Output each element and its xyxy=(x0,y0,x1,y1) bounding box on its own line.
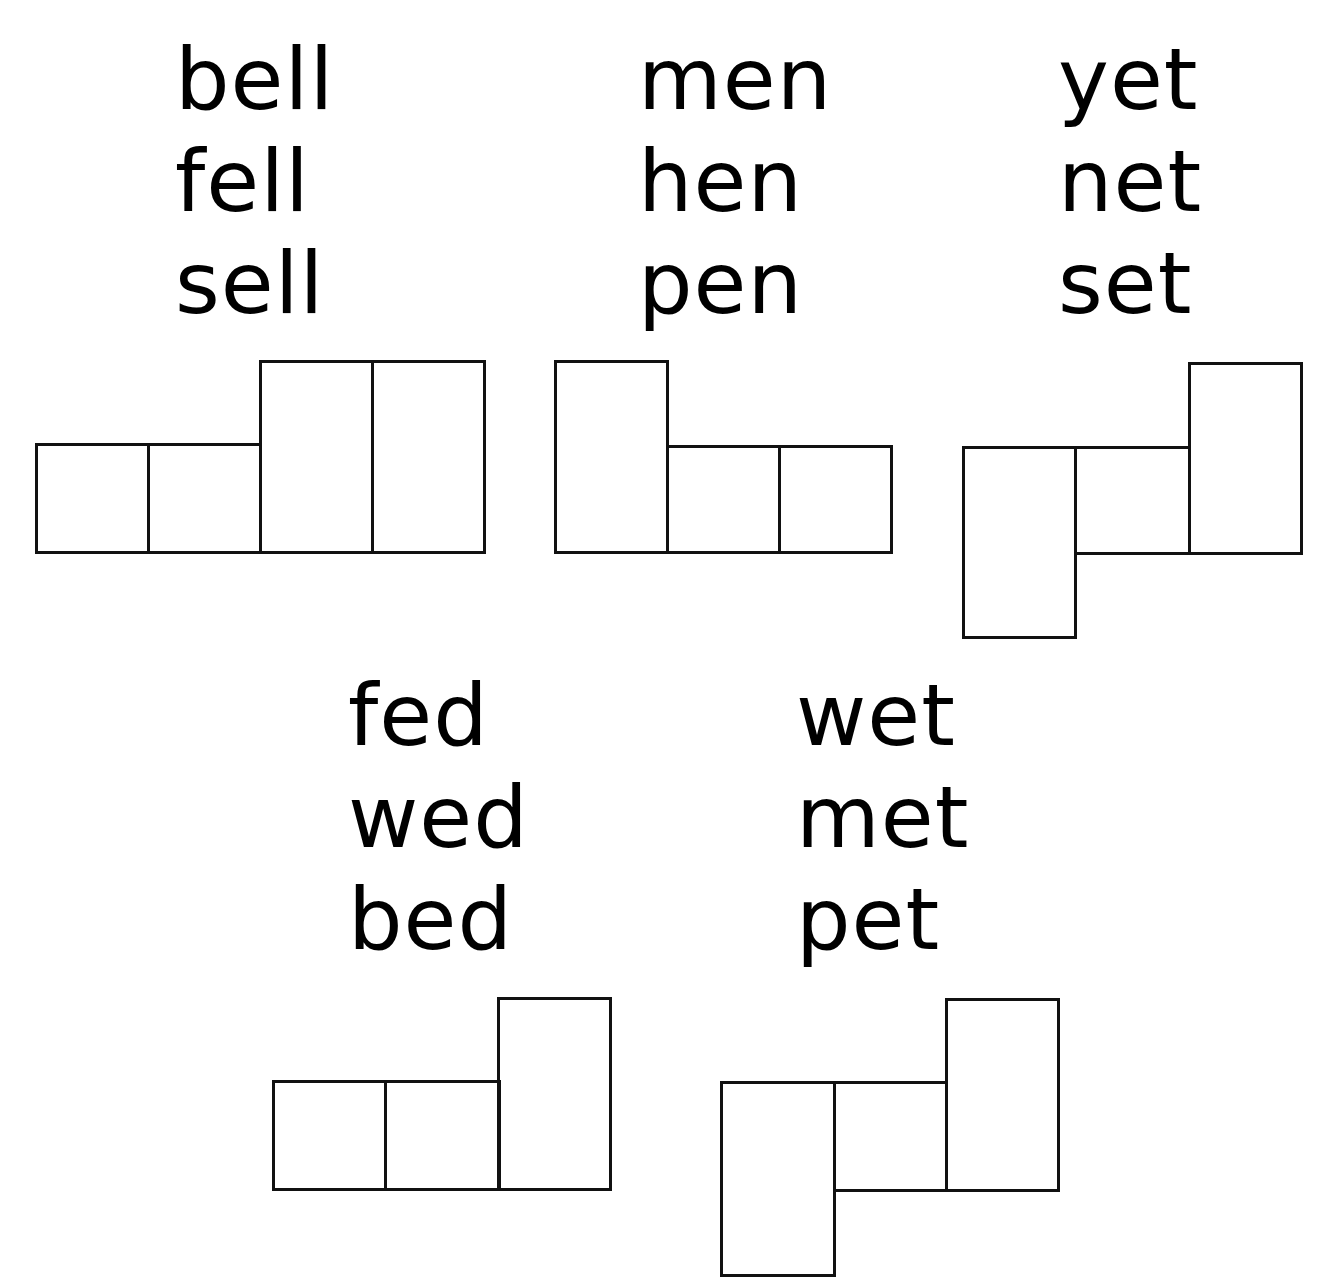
word-list-bell: bell fell sell xyxy=(175,28,334,334)
letter-box-tall[interactable] xyxy=(554,360,669,554)
letter-box-tall[interactable] xyxy=(497,997,612,1191)
letter-box-tall[interactable] xyxy=(259,360,374,554)
letter-box-short[interactable] xyxy=(1074,446,1191,555)
letter-box-short[interactable] xyxy=(384,1080,501,1191)
word-list-men: men hen pen xyxy=(638,28,832,334)
word: fell xyxy=(175,130,334,232)
word: men xyxy=(638,28,832,130)
letter-box-descender[interactable] xyxy=(962,446,1077,639)
word: yet xyxy=(1058,28,1202,130)
letter-box-short[interactable] xyxy=(272,1080,387,1191)
word: bed xyxy=(348,868,529,970)
word: pet xyxy=(796,868,969,970)
word: fed xyxy=(348,664,529,766)
letter-box-short[interactable] xyxy=(778,445,893,554)
word-list-wet: wet met pet xyxy=(796,664,969,970)
word: net xyxy=(1058,130,1202,232)
letter-box-short[interactable] xyxy=(666,445,781,554)
word-list-fed: fed wed bed xyxy=(348,664,529,970)
word: wet xyxy=(796,664,969,766)
word: set xyxy=(1058,232,1202,334)
letter-box-tall[interactable] xyxy=(371,360,486,554)
letter-box-tall[interactable] xyxy=(945,998,1060,1192)
letter-box-short[interactable] xyxy=(35,443,150,554)
word: wed xyxy=(348,766,529,868)
word: hen xyxy=(638,130,832,232)
word: met xyxy=(796,766,969,868)
word: sell xyxy=(175,232,334,334)
word-list-yet: yet net set xyxy=(1058,28,1202,334)
word: pen xyxy=(638,232,832,334)
letter-box-short[interactable] xyxy=(147,443,262,554)
word: bell xyxy=(175,28,334,130)
letter-box-descender[interactable] xyxy=(720,1081,836,1277)
letter-box-tall[interactable] xyxy=(1188,362,1303,555)
letter-box-short[interactable] xyxy=(833,1081,948,1192)
